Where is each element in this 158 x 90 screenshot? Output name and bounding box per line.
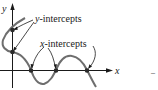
x-axis-arrow-icon: [106, 68, 113, 72]
y-intercept-point: [10, 50, 15, 55]
x-intercept-leader-1: [32, 47, 44, 68]
y-intercepts-text: -intercepts: [39, 13, 81, 24]
x-intercepts-label: x-intercepts: [39, 38, 87, 49]
y-intercept-leader-2: [14, 22, 34, 50]
x-intercept-point: [29, 68, 34, 73]
diagram-canvas: y x y-intercepts x-intercepts –: [0, 0, 158, 90]
y-axis-arrow-icon: [10, 3, 14, 10]
x-axis-label: x: [114, 65, 120, 76]
intercepts-diagram: y x y-intercepts x-intercepts –: [0, 0, 158, 90]
trailing-dash: –: [150, 68, 156, 77]
y-intercepts-label: y-intercepts: [34, 13, 82, 24]
x-intercept-point: [54, 68, 59, 73]
x-intercepts-text: -intercepts: [44, 38, 86, 49]
y-axis-label: y: [1, 3, 7, 14]
y-intercept-point: [10, 28, 15, 33]
x-intercept-point: [85, 68, 90, 73]
